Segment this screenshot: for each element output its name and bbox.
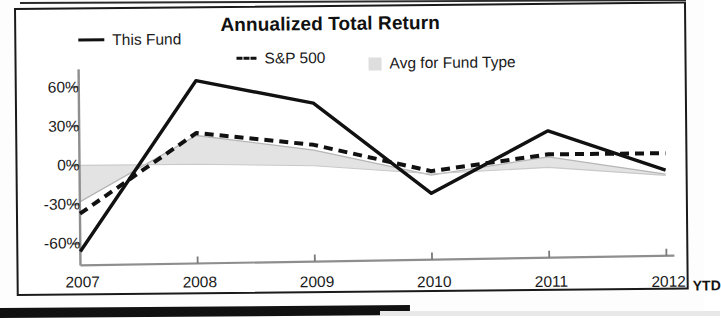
chart-card: Annualized Total Return This Fund S&P 50… <box>14 2 689 296</box>
x-axis-label-2009: 2009 <box>300 273 335 291</box>
scan-bottom-band <box>0 305 410 318</box>
scan-bottom-band-light <box>380 311 720 316</box>
x-axis-label-2010: 2010 <box>417 273 452 291</box>
x-axis-label-2011: 2011 <box>535 273 569 291</box>
x-axis-ytd-note: YTD <box>693 277 721 293</box>
x-axis-label-2012: 2012 <box>651 273 686 291</box>
x-axis-label-2007: 2007 <box>65 273 100 291</box>
x-axis-label-2008: 2008 <box>183 273 218 291</box>
x-axis-labels: 200720082009201020112012 <box>16 4 691 298</box>
